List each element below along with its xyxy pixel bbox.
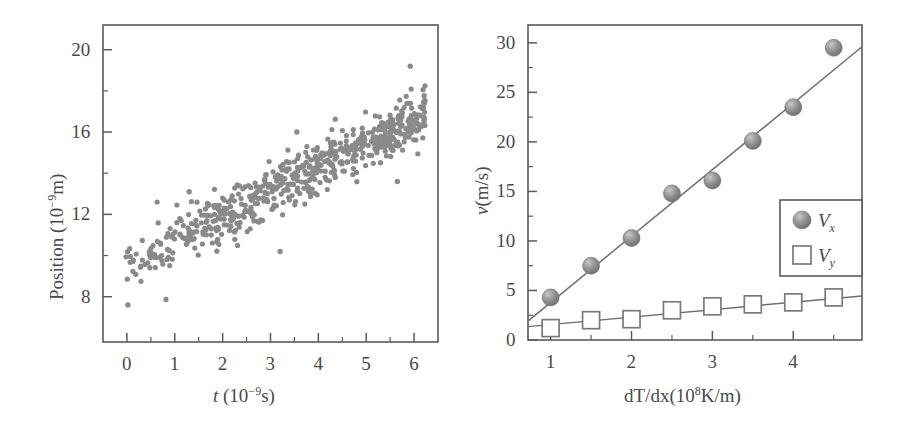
left-data-point xyxy=(236,191,241,196)
right-xtick-label: 4 xyxy=(788,352,798,371)
left-data-point xyxy=(196,253,201,258)
left-data-point xyxy=(303,150,308,155)
left-data-point xyxy=(321,153,326,158)
vy-data-point xyxy=(663,302,680,319)
left-data-point xyxy=(187,228,192,233)
left-data-point xyxy=(242,215,247,220)
left-data-point xyxy=(382,144,387,149)
left-data-point xyxy=(351,127,356,132)
left-data-point xyxy=(271,186,276,191)
left-data-point xyxy=(194,229,199,234)
left-data-point xyxy=(310,187,315,192)
left-data-point xyxy=(346,145,351,150)
left-data-point xyxy=(222,198,227,203)
legend-label-vx: Vx xyxy=(818,211,835,234)
left-data-point xyxy=(269,207,274,212)
left-data-point xyxy=(420,135,425,140)
vx-data-point xyxy=(663,185,680,202)
left-data-point xyxy=(292,202,297,207)
left-data-point xyxy=(330,164,335,169)
left-data-point xyxy=(333,154,338,159)
left-data-point xyxy=(383,149,388,154)
legend-label-vy: Vy xyxy=(818,246,835,269)
left-data-point xyxy=(392,128,397,133)
left-data-point xyxy=(248,226,253,231)
left-data-point xyxy=(155,199,160,204)
left-data-point xyxy=(277,176,282,181)
left-data-point xyxy=(372,127,377,132)
left-data-point xyxy=(221,216,226,221)
left-data-point xyxy=(363,163,368,168)
left-data-point xyxy=(285,182,290,187)
right-x-axis-title: dT/dx(108K/m) xyxy=(624,385,741,405)
left-data-point xyxy=(339,159,344,164)
left-data-point xyxy=(214,239,219,244)
left-data-point xyxy=(258,188,263,193)
left-data-point xyxy=(390,117,395,122)
left-data-point xyxy=(168,226,173,231)
left-data-point xyxy=(322,159,327,164)
left-data-point xyxy=(230,193,235,198)
left-data-point xyxy=(308,194,313,199)
left-data-point xyxy=(366,130,371,135)
left-xtick-label: 5 xyxy=(361,354,371,373)
left-data-point xyxy=(228,224,233,229)
right-chart-panel: 0 5 10 15 20 25 30 1 2 3 4 v(m/s) dT/dx(… xyxy=(450,0,897,425)
left-y-axis-title: Position (10−9m) xyxy=(46,174,66,300)
left-data-point xyxy=(173,229,178,234)
left-data-point xyxy=(400,122,405,127)
left-data-point xyxy=(354,179,359,184)
left-data-point xyxy=(422,99,427,104)
left-data-point xyxy=(138,265,143,270)
legend-marker-vx xyxy=(793,211,811,229)
left-data-point xyxy=(204,232,209,237)
left-data-point xyxy=(323,175,328,180)
left-data-point xyxy=(397,98,402,103)
left-data-point xyxy=(360,126,365,131)
left-data-point xyxy=(415,151,420,156)
left-data-point xyxy=(199,220,204,225)
left-data-point xyxy=(280,212,285,217)
left-data-point xyxy=(325,187,330,192)
left-data-point xyxy=(291,182,296,187)
left-data-point xyxy=(229,219,234,224)
left-data-point xyxy=(292,159,297,164)
vy-data-point xyxy=(542,320,559,337)
left-data-point xyxy=(181,223,186,228)
legend-marker-vy xyxy=(793,246,811,264)
left-data-point xyxy=(177,216,182,221)
left-data-point xyxy=(252,192,257,197)
left-data-point xyxy=(296,153,301,158)
left-data-point xyxy=(240,186,245,191)
right-ytick-label: 20 xyxy=(496,132,515,151)
right-xtick-label: 3 xyxy=(707,352,717,371)
vx-fit-line xyxy=(528,47,862,321)
left-scatter-series xyxy=(124,63,428,307)
left-data-point xyxy=(408,101,413,106)
left-data-point xyxy=(404,94,409,99)
left-data-point xyxy=(239,196,244,201)
left-data-point xyxy=(170,257,175,262)
left-data-point xyxy=(351,153,356,158)
left-data-point xyxy=(283,167,288,172)
left-data-point xyxy=(255,201,260,206)
left-data-point xyxy=(237,225,242,230)
left-data-point xyxy=(338,141,343,146)
left-data-point xyxy=(278,164,283,169)
left-data-point xyxy=(311,147,316,152)
left-data-point xyxy=(284,159,289,164)
left-data-point xyxy=(189,221,194,226)
left-data-point xyxy=(140,238,145,243)
left-data-point xyxy=(363,109,368,114)
left-data-point xyxy=(273,174,278,179)
left-data-point xyxy=(362,135,367,140)
left-data-point xyxy=(235,243,240,248)
left-data-point xyxy=(228,204,233,209)
left-xtick-label: 0 xyxy=(122,354,132,373)
left-data-point xyxy=(388,145,393,150)
left-data-point xyxy=(277,249,282,254)
vx-data-point xyxy=(785,99,802,116)
left-data-point xyxy=(125,277,130,282)
left-data-point xyxy=(419,124,424,129)
left-data-point xyxy=(387,113,392,118)
